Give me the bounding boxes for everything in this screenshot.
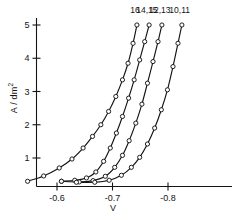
curve-14-15 (61, 25, 149, 181)
data-point-marker (120, 114, 124, 118)
y-axis-title: A / dm2 (7, 72, 19, 124)
data-point-marker (90, 134, 94, 138)
x-axis-title: V (98, 203, 128, 213)
data-point-marker (74, 180, 78, 184)
data-point-marker (107, 178, 111, 182)
data-point-marker (114, 131, 118, 135)
data-point-marker (59, 179, 63, 183)
y-axis-title-base: A / dm (9, 87, 19, 114)
data-point-marker (145, 81, 149, 85)
data-point-marker (94, 170, 98, 174)
data-point-marker (99, 123, 103, 127)
data-curves (28, 25, 182, 182)
data-point-marker (171, 64, 175, 68)
y-tick-label: 5 (24, 20, 29, 30)
data-point-marker (120, 153, 124, 157)
data-point-marker (119, 173, 123, 177)
data-point-marker (159, 108, 163, 112)
data-point-marker (165, 88, 169, 92)
data-point-markers (25, 23, 183, 184)
polarization-curve-chart: 12345-0.6-0.7-0.8 1614,1512,1310,11 (0, 0, 243, 220)
tick-labels: 12345-0.6-0.7-0.8 (24, 20, 175, 202)
x-tick-label: -0.6 (49, 193, 65, 203)
data-point-marker (140, 102, 144, 106)
data-point-marker (138, 155, 142, 159)
data-point-marker (108, 146, 112, 150)
data-point-marker (103, 174, 107, 178)
data-point-marker (131, 41, 135, 45)
data-point-marker (126, 61, 130, 65)
data-point-marker (93, 180, 97, 184)
data-point-marker (113, 165, 117, 169)
y-tick-label: 2 (24, 120, 29, 130)
data-point-marker (25, 179, 29, 183)
data-point-marker (42, 174, 46, 178)
data-point-marker (129, 165, 133, 169)
data-point-marker (102, 159, 106, 163)
curve-label-12-13: 12,13 (149, 5, 171, 15)
data-point-marker (120, 78, 124, 82)
data-point-marker (70, 157, 74, 161)
data-point-marker (135, 23, 139, 27)
y-tick-label: 4 (24, 53, 29, 63)
data-point-marker (153, 126, 157, 130)
data-point-marker (180, 23, 184, 27)
data-point-marker (127, 139, 131, 143)
data-point-marker (176, 41, 180, 45)
curve-10-11 (76, 25, 181, 182)
curve-end-labels: 1614,1512,1310,11 (130, 5, 190, 15)
y-axis-title-exponent: 2 (7, 83, 14, 87)
x-tick-label: -0.7 (105, 193, 121, 203)
data-point-marker (151, 59, 155, 63)
data-point-marker (57, 166, 61, 170)
data-point-marker (132, 78, 136, 82)
data-point-marker (156, 40, 160, 44)
data-point-marker (138, 58, 142, 62)
data-point-marker (84, 176, 88, 180)
data-point-marker (134, 121, 138, 125)
data-point-marker (107, 109, 111, 113)
y-tick-label: 3 (24, 87, 29, 97)
data-point-marker (160, 23, 164, 27)
curve-12-13 (61, 25, 161, 182)
data-point-marker (143, 40, 147, 44)
data-point-marker (81, 146, 85, 150)
data-point-marker (114, 94, 118, 98)
data-point-marker (126, 96, 130, 100)
figure-container: 12345-0.6-0.7-0.8 1614,1512,1310,11 A / … (0, 0, 243, 220)
y-tick-label: 1 (24, 153, 29, 163)
curve-label-10-11: 10,11 (169, 5, 190, 15)
data-point-marker (147, 23, 151, 27)
x-tick-label: -0.8 (160, 193, 176, 203)
data-point-marker (145, 142, 149, 146)
